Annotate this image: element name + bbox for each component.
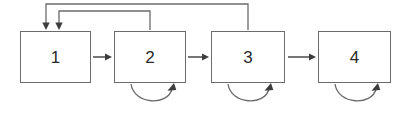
self-loop-3 <box>228 83 273 101</box>
self-loop-4-path <box>335 84 376 101</box>
node-box-2[interactable]: 2 <box>114 31 186 83</box>
arrow-2-to-3 <box>188 53 209 60</box>
feedback-3-to-1-head <box>42 23 49 31</box>
arrow-1-to-2-head <box>105 53 112 60</box>
self-loop-4 <box>335 83 380 101</box>
arrow-3-to-4 <box>288 53 316 60</box>
feedback-2-to-1-path <box>59 11 150 30</box>
node-box-3[interactable]: 3 <box>211 31 285 83</box>
arrow-2-to-3-head <box>202 53 209 60</box>
self-loop-3-head <box>265 83 274 91</box>
feedback-2-to-1 <box>55 11 150 30</box>
feedback-2-to-1-head <box>55 23 62 31</box>
self-loop-2-path <box>131 84 172 101</box>
self-loop-4-head <box>372 83 381 91</box>
self-loop-2-head <box>168 83 177 91</box>
node-box-4[interactable]: 4 <box>318 31 391 83</box>
node-box-1[interactable]: 1 <box>20 31 91 83</box>
node-label-1: 1 <box>51 49 60 66</box>
node-label-3: 3 <box>243 49 252 66</box>
feedback-3-to-1 <box>42 4 248 30</box>
node-label-4: 4 <box>350 49 359 66</box>
feedback-3-to-1-path <box>46 4 248 30</box>
self-loop-3-path <box>228 84 269 101</box>
self-loop-2 <box>131 83 176 101</box>
arrow-3-to-4-head <box>309 53 316 60</box>
node-label-2: 2 <box>145 49 154 66</box>
diagram-canvas: 1 2 3 4 <box>0 0 410 115</box>
arrow-1-to-2 <box>93 53 112 60</box>
